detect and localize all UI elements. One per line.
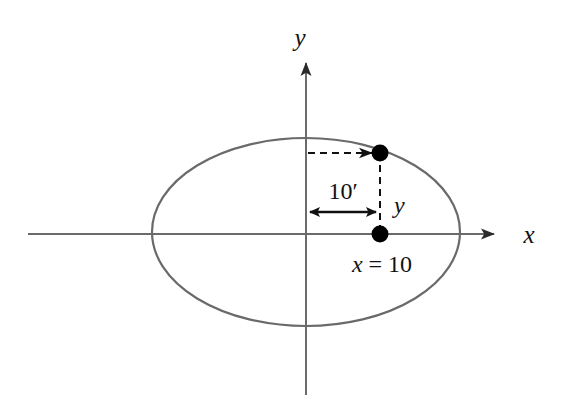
x-value-label-variable: x (351, 251, 363, 277)
point-on-ellipse-marker (372, 145, 389, 162)
x-value-label-rest: = 10 (363, 251, 413, 277)
x-axis-label: x (522, 221, 534, 248)
height-label-y: y (392, 192, 405, 218)
diagram-canvas: y x 10′ y x = 10 (0, 0, 562, 408)
y-axis-label: y (291, 24, 306, 51)
x-value-label: x = 10 (351, 251, 412, 277)
point-on-x-axis-marker (372, 226, 389, 243)
ellipse-diagram: y x 10′ y x = 10 (0, 0, 562, 408)
dimension-label-10ft: 10′ (328, 178, 357, 204)
